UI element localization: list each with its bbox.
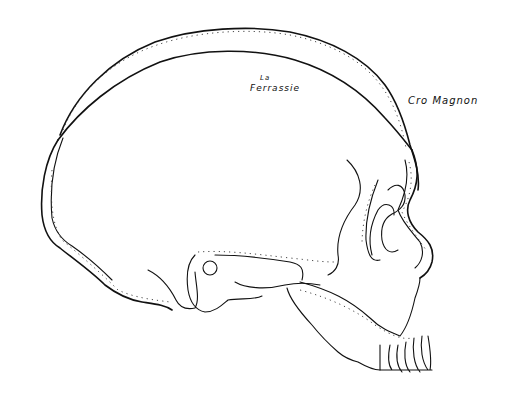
occipital-hatching xyxy=(51,170,170,302)
occipital-outline-outer xyxy=(42,140,172,310)
ear-region-outline xyxy=(187,255,262,312)
la-ferrassie-vault-outline xyxy=(58,51,412,150)
zygomatic-arch-lower xyxy=(235,282,320,288)
ear-opening xyxy=(203,261,217,275)
mastoid-process xyxy=(148,270,197,309)
skull-comparison-drawing xyxy=(0,0,524,397)
cro-magnon-vault-outline xyxy=(60,28,418,190)
occipital-outline-inner xyxy=(51,138,112,280)
maxilla-outline xyxy=(300,278,420,336)
teeth xyxy=(380,336,432,372)
la-ferrassie-label-line2: Ferrassie xyxy=(250,83,300,93)
zygomatic-arch-upper xyxy=(215,255,303,280)
cro-magnon-label: Cro Magnon xyxy=(408,95,478,106)
zygomatic-arch-hatching xyxy=(198,251,335,262)
palate-lower-edge xyxy=(287,288,380,370)
la-ferrassie-label-line1: La xyxy=(260,74,270,82)
temporal-line xyxy=(328,160,360,275)
nasal-profile-outer xyxy=(408,150,433,278)
